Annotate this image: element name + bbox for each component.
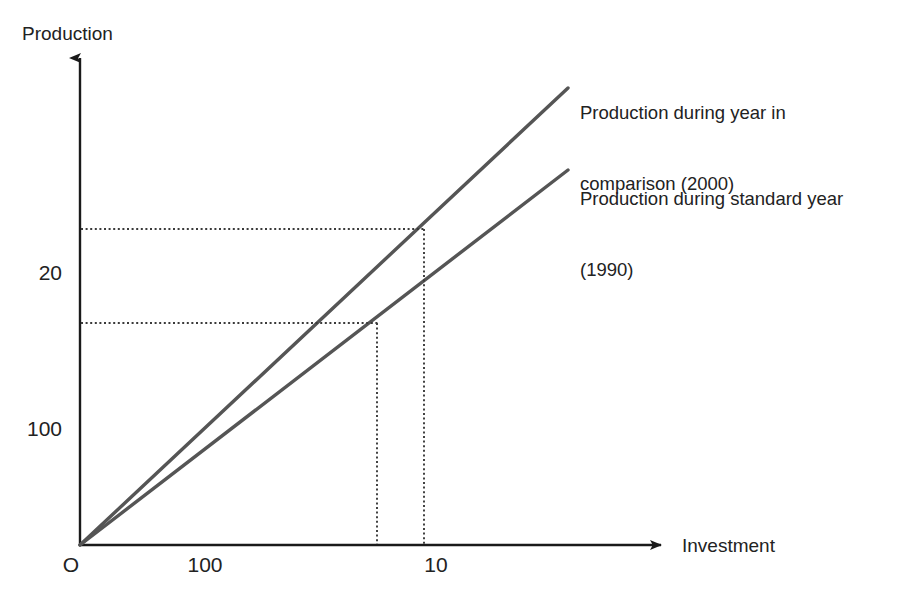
x-tick-label-100: 100 <box>170 552 240 579</box>
x-axis-title: Investment <box>682 534 775 558</box>
chart-figure: Production Investment 20 100 O 100 10 Pr… <box>0 0 910 604</box>
legend-item-standard-year-line1: Production during standard year <box>580 187 910 211</box>
y-axis-title: Production <box>22 22 113 46</box>
x-tick-label-10: 10 <box>401 552 471 579</box>
legend-item-comparison-year-line1: Production during year in <box>580 101 910 125</box>
legend-item-standard-year: Production during standard year (1990) <box>580 140 910 329</box>
origin-label: O <box>36 552 106 579</box>
legend-item-standard-year-line2: (1990) <box>580 258 910 282</box>
series-line-comparison-year <box>80 88 568 545</box>
y-tick-label-20: 20 <box>0 260 62 287</box>
series-line-standard-year <box>80 170 568 545</box>
y-tick-label-100: 100 <box>0 416 62 443</box>
